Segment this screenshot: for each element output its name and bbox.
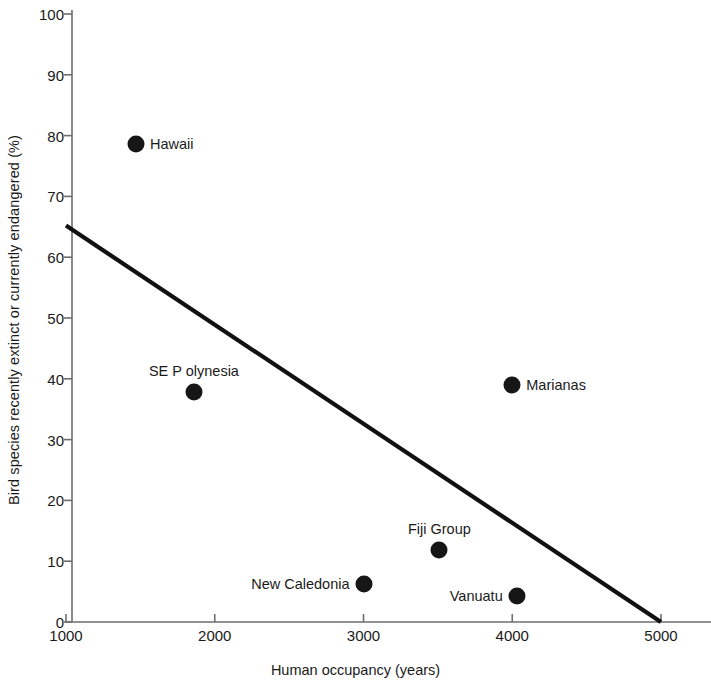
x-axis-tick-label: 5000 [644, 628, 677, 643]
data-point-label: Vanuatu [450, 589, 503, 604]
trend-line [66, 226, 661, 622]
data-point-label: Fiji Group [408, 521, 471, 536]
data-point-label: Marianas [526, 378, 586, 393]
data-point-marker[interactable] [127, 136, 144, 153]
data-point-label: New Caledonia [251, 576, 349, 591]
data-point-marker[interactable] [508, 588, 525, 605]
scatter-chart-figure: Bird species recently extinct or current… [0, 0, 711, 695]
x-axis-title-text: Human occupancy (years) [271, 662, 440, 678]
x-axis-ticks [66, 614, 661, 622]
data-point-marker[interactable] [185, 384, 202, 401]
data-point-marker[interactable] [355, 575, 372, 592]
x-axis-tick-label: 3000 [347, 628, 380, 643]
regression-line [66, 226, 661, 622]
data-point-marker[interactable] [504, 376, 521, 393]
data-point-marker[interactable] [431, 541, 448, 558]
data-point-label: SE P olynesia [149, 364, 239, 379]
axis-lines [66, 10, 711, 622]
plot-area [0, 0, 711, 695]
y-axis-ticks [64, 14, 72, 622]
x-axis-title: Human occupancy (years) [0, 662, 711, 678]
x-axis-tick-label: 1000 [49, 628, 82, 643]
x-axis-tick-label: 4000 [496, 628, 529, 643]
x-axis-tick-label: 2000 [198, 628, 231, 643]
data-point-label: Hawaii [150, 137, 194, 152]
